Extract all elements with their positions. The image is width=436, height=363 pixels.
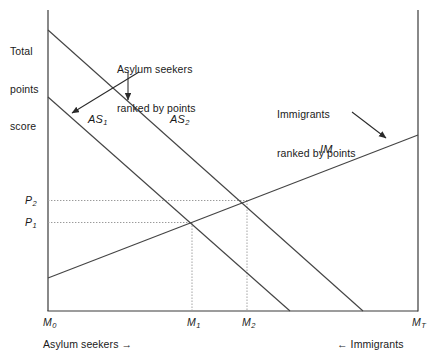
diagram-canvas [0, 0, 436, 363]
x-tick-label-mt-main: M [412, 316, 421, 328]
annotation-asylum-line-1: Asylum seekers [117, 63, 196, 76]
annotation-asylum-line-2: ranked by points [117, 102, 196, 115]
y-axis-title-line-1: Total [10, 45, 39, 58]
x-tick-label-m1-sub: 1 [196, 321, 200, 330]
x-tick-label-m1: M1 [187, 316, 200, 331]
y-axis-title-line-3: score [10, 120, 39, 133]
y-tick-label-p1: P1 [25, 216, 36, 231]
x-tick-label-m1-main: M [187, 316, 196, 328]
annotation-immigrants-line-1: Immigrants [277, 108, 356, 121]
x-tick-label-m2-sub: 2 [251, 321, 255, 330]
annotation-immigrants-line-2: ranked by points [277, 147, 356, 160]
curve-label-as1: AS1 [88, 113, 107, 128]
x-tick-label-m2-main: M [242, 316, 251, 328]
x-tick-label-m0: M0 [43, 316, 56, 331]
y-tick-label-p1-sub: 1 [32, 221, 36, 230]
y-tick-label-p2: P2 [25, 194, 36, 209]
y-tick-label-p2-sub: 2 [32, 199, 36, 208]
x-tick-label-m2: M2 [242, 316, 255, 331]
y-axis-title: Total points score [10, 20, 39, 158]
x-tick-label-mt-sub: T [421, 321, 426, 330]
annotation-immigrants: Immigrants ranked by points [277, 82, 356, 186]
x-tick-label-m0-main: M [43, 316, 52, 328]
x-direction-label-left: Asylum seekers → [43, 338, 132, 351]
curve-label-as1-main: AS [88, 113, 103, 125]
y-axis-title-line-2: points [10, 83, 39, 96]
curve-label-as1-sub: 1 [103, 118, 107, 127]
points-diagram-figure: Total points score P2 P1 M0 M1 M2 MT AS1… [0, 0, 436, 363]
x-tick-label-mt: MT [412, 316, 426, 331]
x-tick-label-m0-sub: 0 [52, 321, 56, 330]
x-direction-label-right: ← Immigrants [337, 338, 404, 351]
curve-im [48, 135, 418, 278]
leader-line-to-im [352, 112, 386, 138]
annotation-asylum-seekers: Asylum seekers ranked by points [117, 37, 196, 141]
